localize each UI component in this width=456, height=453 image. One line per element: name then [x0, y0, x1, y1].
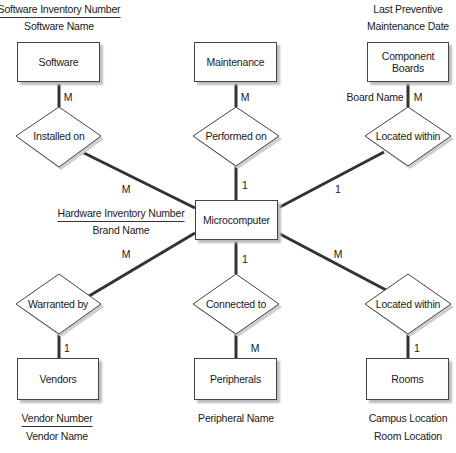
- entity-rooms: Rooms: [366, 358, 449, 400]
- attr-maintenance-date: Maintenance Date: [367, 20, 449, 32]
- entity-peripherals-label: Peripherals: [210, 373, 261, 385]
- cardinality-boards: M: [414, 91, 423, 103]
- relationship-label-performed-on: Performed on: [205, 130, 266, 142]
- entity-microcomputer-label: Microcomputer: [203, 214, 270, 226]
- relationship-label-located-within-boards: Located within: [376, 130, 440, 142]
- cardinality-located-micro: 1: [335, 183, 341, 195]
- line-located-rooms-micro: [278, 233, 386, 290]
- entity-microcomputer: Microcomputer: [195, 200, 278, 240]
- cardinality-connected-micro: 1: [242, 253, 248, 265]
- cardinality-maintenance: M: [241, 91, 250, 103]
- attr-brand-name: Brand Name: [93, 224, 150, 236]
- cardinality-software: M: [64, 91, 73, 103]
- entity-component-boards: Component Boards: [367, 42, 449, 82]
- entity-peripherals: Peripherals: [194, 358, 277, 400]
- cardinality-warranted-micro: M: [122, 248, 131, 260]
- line-warranted-micro: [84, 233, 195, 299]
- entity-maintenance-label: Maintenance: [207, 56, 265, 68]
- relationship-label-installed-on: Installed on: [33, 130, 84, 142]
- attr-vendor-name: Vendor Name: [26, 430, 88, 442]
- cardinality-installed-micro: M: [122, 183, 131, 195]
- er-diagram: Software Inventory Number Software Name …: [0, 0, 456, 453]
- cardinality-performed-micro: 1: [242, 179, 248, 191]
- attr-board-name: Board Name: [347, 91, 404, 103]
- entity-software-label: Software: [39, 56, 79, 68]
- attr-software-name: Software Name: [24, 20, 94, 32]
- entity-vendors-label: Vendors: [39, 373, 76, 385]
- cardinality-rooms: 1: [414, 342, 420, 354]
- attr-software-inventory-number: Software Inventory Number: [0, 3, 120, 18]
- attr-campus-location: Campus Location: [369, 412, 448, 424]
- relationship-label-located-within-rooms: Located within: [376, 298, 440, 310]
- cardinality-peripherals: M: [251, 342, 260, 354]
- attr-hardware-inventory-number: Hardware Inventory Number: [58, 207, 185, 222]
- attr-peripheral-name: Peripheral Name: [198, 412, 274, 424]
- attr-last-preventive: Last Preventive: [373, 3, 442, 15]
- attr-room-location: Room Location: [374, 430, 442, 442]
- entity-maintenance: Maintenance: [194, 42, 277, 82]
- relationship-label-warranted-by: Warranted by: [28, 298, 88, 310]
- attr-vendor-number: Vendor Number: [22, 412, 93, 427]
- entity-rooms-label: Rooms: [391, 373, 423, 385]
- entity-component-boards-label: Component Boards: [382, 50, 434, 74]
- relationship-label-connected-to: Connected to: [206, 298, 266, 310]
- entity-vendors: Vendors: [17, 358, 99, 400]
- line-installed-micro: [82, 152, 195, 208]
- line-located-micro: [278, 152, 384, 208]
- cardinality-located-rooms-micro: M: [334, 248, 343, 260]
- cardinality-vendors: 1: [64, 342, 70, 354]
- entity-software: Software: [17, 42, 100, 82]
